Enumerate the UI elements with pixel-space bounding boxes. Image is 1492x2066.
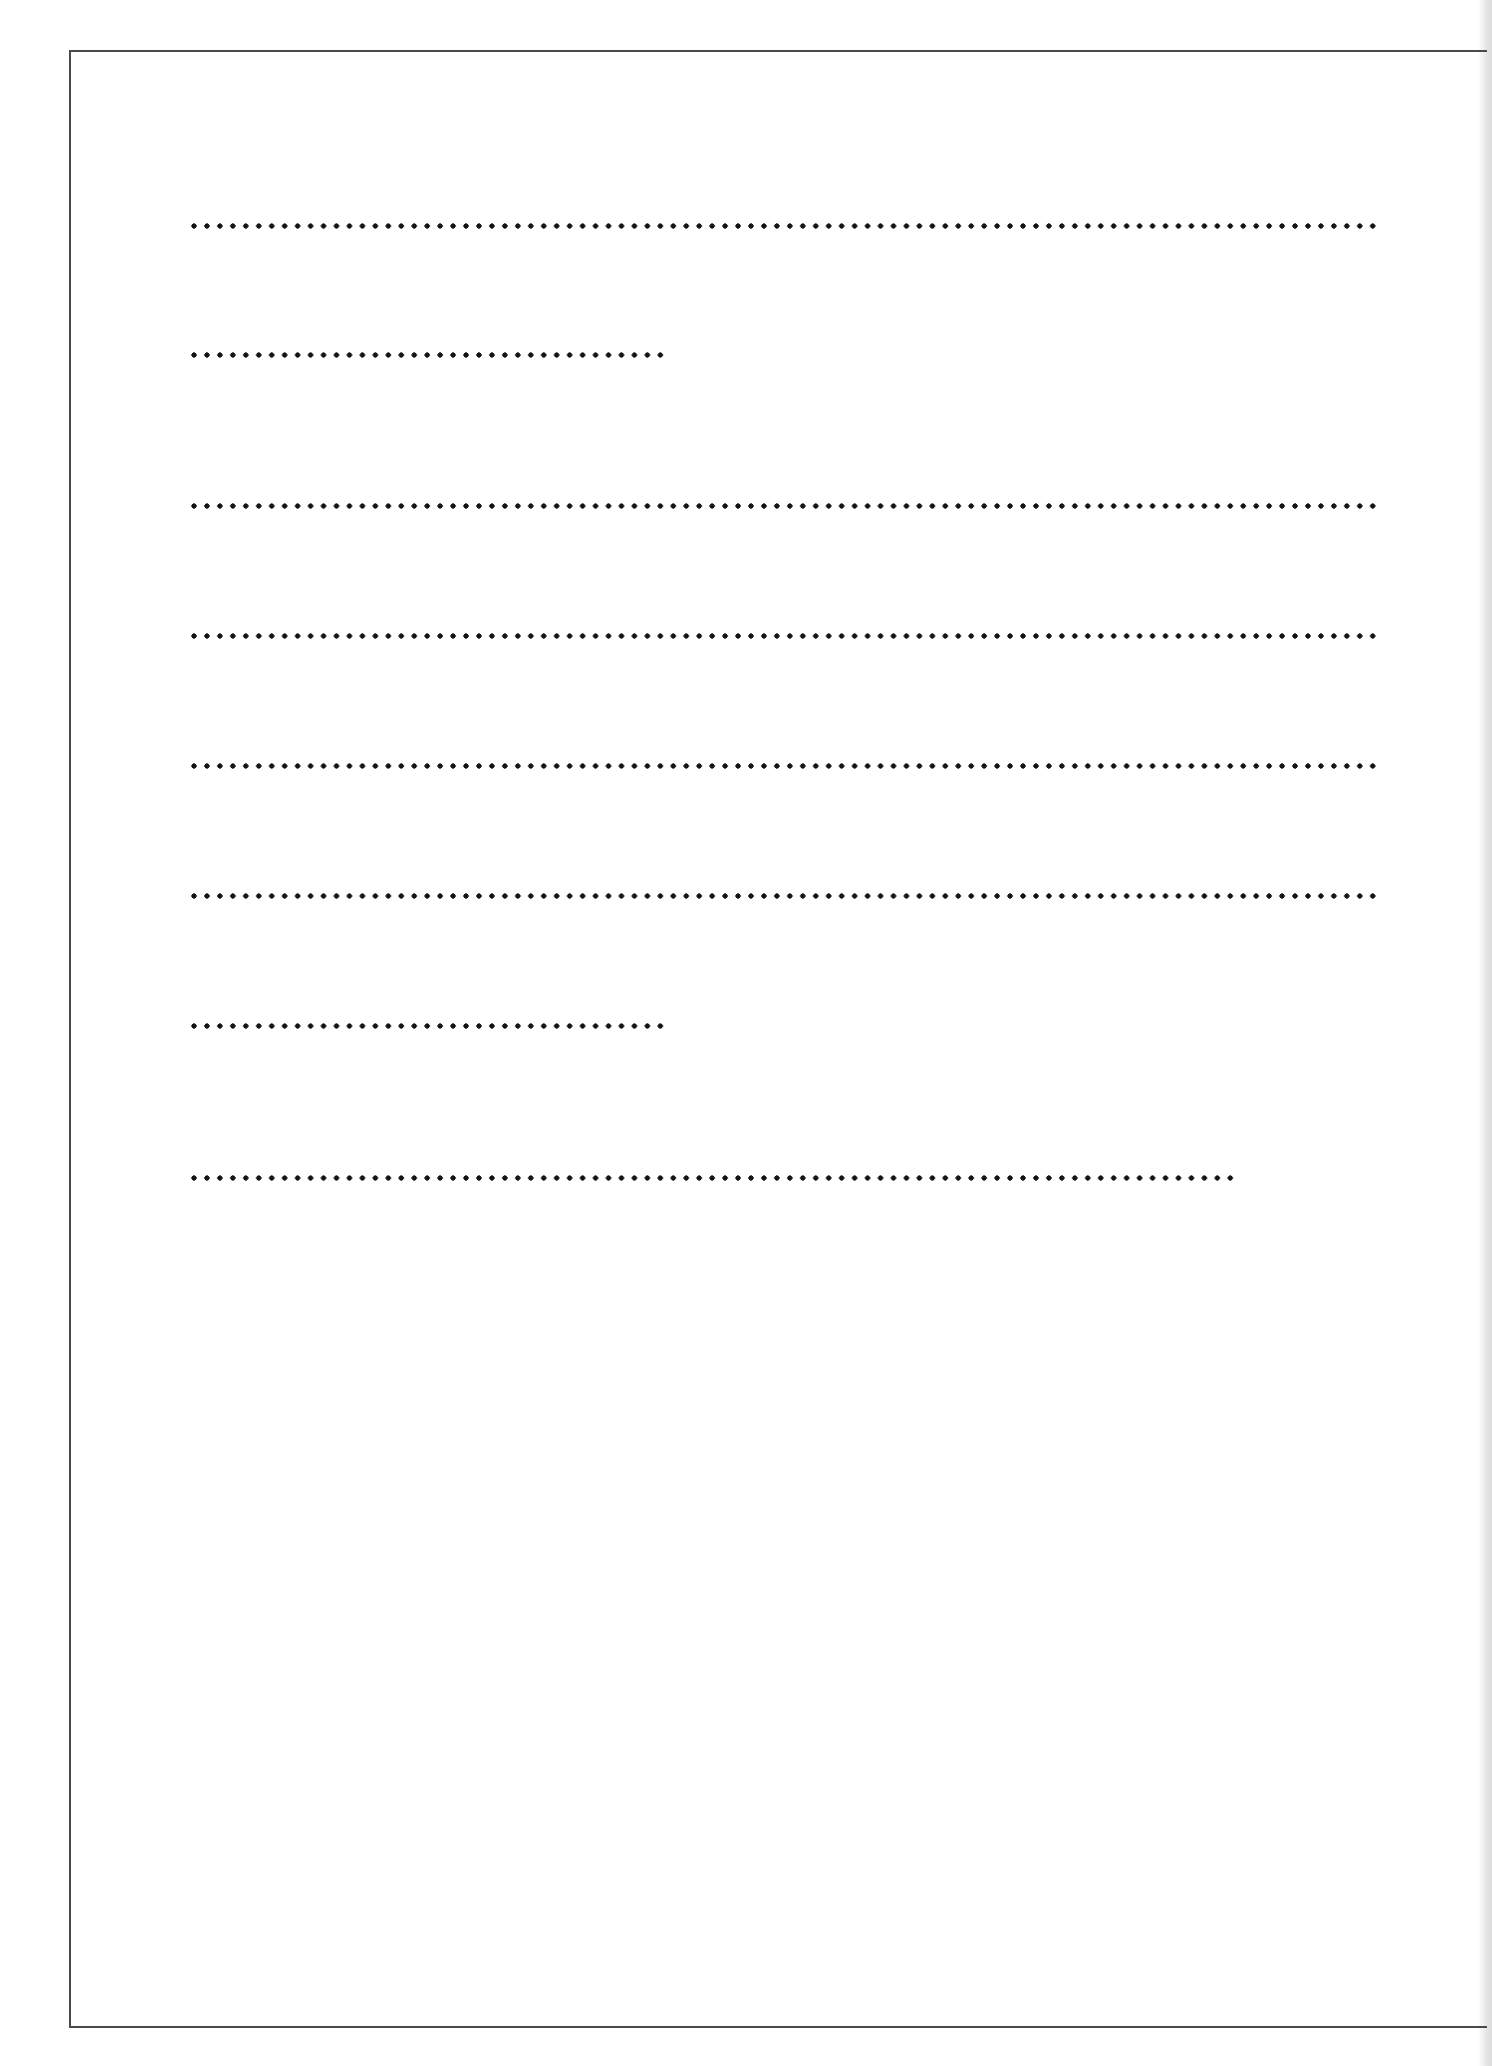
dotted-line-2 (190, 351, 665, 359)
dotted-line-3 (190, 502, 1377, 510)
dotted-line-6 (190, 892, 1377, 900)
dotted-line-4 (190, 632, 1377, 640)
dotted-line-5 (190, 762, 1377, 770)
page-frame-border (69, 50, 1487, 2028)
dotted-line-1 (190, 222, 1377, 230)
dotted-line-8 (190, 1174, 1235, 1182)
dotted-line-7 (190, 1022, 665, 1030)
